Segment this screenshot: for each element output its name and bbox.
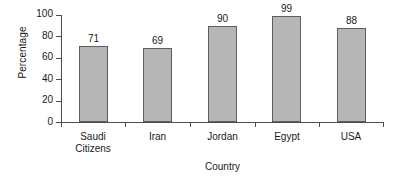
x-tick-mark-4	[319, 123, 320, 127]
x-tick-mark-0	[61, 123, 62, 127]
x-category-label-iran: Iran	[125, 131, 190, 143]
x-axis-title: Country	[61, 161, 384, 172]
x-tick-mark-5	[383, 123, 384, 127]
y-axis-line	[61, 15, 62, 123]
x-category-label-jordan: Jordan	[190, 131, 255, 143]
x-tick-mark-2	[190, 123, 191, 127]
y-tick-label-40: 40	[3, 74, 53, 84]
y-tick-label-0: 0	[3, 117, 53, 127]
x-category-label-usa: USA	[319, 131, 383, 143]
bar-value-saudi-citizens: 71	[69, 33, 118, 44]
bar-saudi-citizens[interactable]	[79, 46, 108, 122]
bar-iran[interactable]	[143, 48, 172, 122]
bar-jordan[interactable]	[208, 26, 237, 122]
x-tick-mark-3	[255, 123, 256, 127]
y-tick-label-80: 80	[3, 31, 53, 41]
bar-value-egypt: 99	[262, 3, 311, 14]
x-category-label-line2: Citizens	[61, 143, 125, 155]
bar-value-jordan: 90	[198, 13, 247, 24]
bar-usa[interactable]	[337, 28, 366, 122]
x-axis-line	[61, 122, 384, 123]
y-tick-label-100: 100	[3, 9, 53, 19]
bar-value-usa: 88	[327, 15, 376, 26]
bar-value-iran: 69	[133, 35, 182, 46]
bar-egypt[interactable]	[272, 16, 301, 122]
x-category-label-saudi-citizens: Saudi Citizens	[61, 131, 125, 155]
bar-chart: Percentage 100 80 60 40 20 0 71 69 90 99…	[0, 0, 394, 187]
x-category-label-egypt: Egypt	[255, 131, 319, 143]
y-tick-label-20: 20	[3, 95, 53, 105]
y-tick-label-60: 60	[3, 52, 53, 62]
x-tick-mark-1	[125, 123, 126, 127]
x-category-label-line1: Saudi	[80, 131, 106, 142]
